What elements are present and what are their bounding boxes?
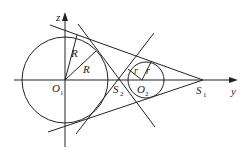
svg-text:2: 2 bbox=[145, 90, 149, 98]
label-s2: S 2 bbox=[113, 83, 124, 98]
radius-label-r-1: r bbox=[134, 65, 138, 76]
radius-label-R-2: R bbox=[82, 63, 90, 75]
y-axis-arrow-icon bbox=[229, 77, 238, 83]
z-axis-arrow-icon bbox=[62, 12, 68, 21]
tangent-circles-diagram: z y R R r r O 1 O 2 S 1 S 2 bbox=[0, 0, 252, 160]
z-axis-label: z bbox=[55, 11, 61, 23]
label-o1: O 1 bbox=[52, 82, 64, 97]
y-axis-label: y bbox=[230, 85, 236, 97]
inner-tangent-1 bbox=[78, 24, 155, 127]
svg-text:S: S bbox=[196, 84, 202, 96]
svg-text:O: O bbox=[137, 83, 145, 95]
label-s1: S 1 bbox=[196, 84, 207, 99]
label-o2: O 2 bbox=[137, 83, 149, 98]
radius-label-r-2: r bbox=[146, 65, 150, 76]
radius-r-line-2 bbox=[65, 51, 96, 80]
svg-text:S: S bbox=[113, 83, 119, 95]
svg-text:2: 2 bbox=[120, 90, 124, 98]
svg-text:1: 1 bbox=[60, 89, 64, 97]
svg-text:O: O bbox=[52, 82, 60, 94]
radius-label-R-1: R bbox=[70, 47, 78, 59]
svg-text:1: 1 bbox=[203, 91, 207, 99]
